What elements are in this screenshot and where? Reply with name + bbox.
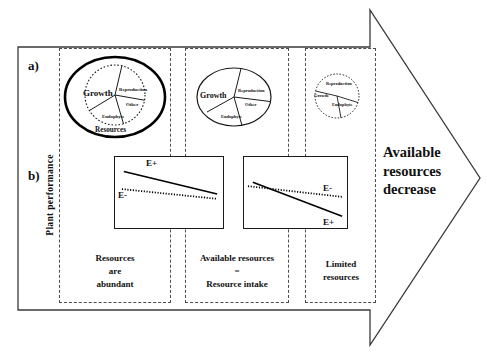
pie3-label-growth: Growth xyxy=(314,94,329,98)
caption-line: are xyxy=(62,265,168,278)
pie2-label-endophyte: Endophyte xyxy=(221,115,242,120)
panel-label-a: a) xyxy=(28,58,39,74)
series-line-e-plus xyxy=(124,172,217,194)
series-label-e-plus: E+ xyxy=(146,158,157,168)
pie2-label-growth: Growth xyxy=(200,92,227,100)
arrow-label-line: Available xyxy=(383,143,479,162)
caption-abundant: Resources are abundant xyxy=(62,252,168,291)
caption-equal: Available resources = Resource intake xyxy=(187,252,287,291)
pie-chart-abundant: Growth Reproduction Other Endophyte Reso… xyxy=(62,55,168,143)
caption-line: Limited xyxy=(307,258,375,271)
pie1-label-resources: Resources xyxy=(95,127,126,134)
caption-line: resources xyxy=(307,271,375,284)
line-chart-abundant: E+ E- xyxy=(114,156,224,229)
pie-chart-equal: Growth Reproduction Other Endophyte xyxy=(190,63,278,133)
slice-divider xyxy=(115,95,145,100)
resource-allocation-figure: a) b) Growth Reproduction Other Endophyt… xyxy=(0,0,487,356)
caption-limited: Limited resources xyxy=(307,258,375,284)
pie1-label-reproduction: Reproduction xyxy=(119,88,147,93)
caption-line: Available resources xyxy=(187,252,287,265)
line-chart-equal: E- E+ xyxy=(243,156,348,229)
series-label-e-minus: E- xyxy=(118,190,127,200)
pie3-label-endophyte: Endophyte xyxy=(332,103,353,107)
y-axis-title: Plant performance xyxy=(45,140,55,250)
pie1-label-endophyte: Endophyte xyxy=(102,115,124,120)
slice-divider xyxy=(234,97,242,126)
pie1-label-growth: Growth xyxy=(83,89,113,98)
arrow-label: Available resources decrease xyxy=(383,143,479,199)
series-label-e-plus: E+ xyxy=(323,217,334,227)
caption-line: abundant xyxy=(62,278,168,291)
pie3-label-reproduction: Reproduction xyxy=(326,82,352,86)
pie1-label-other: Other xyxy=(126,103,138,108)
panel-label-b: b) xyxy=(28,168,40,184)
pie-chart-limited: Reproduction Growth Endophyte xyxy=(306,70,368,124)
caption-line: = xyxy=(187,265,287,278)
slice-divider xyxy=(234,97,270,102)
pie2-label-other: Other xyxy=(245,103,257,108)
series-label-e-minus: E- xyxy=(323,183,332,193)
arrow-label-line: decrease xyxy=(383,180,479,199)
pie2-label-reproduction: Reproduction xyxy=(238,89,264,94)
caption-line: Resources xyxy=(62,252,168,265)
arrow-label-line: resources xyxy=(383,162,479,181)
caption-line: Resource intake xyxy=(187,278,287,291)
